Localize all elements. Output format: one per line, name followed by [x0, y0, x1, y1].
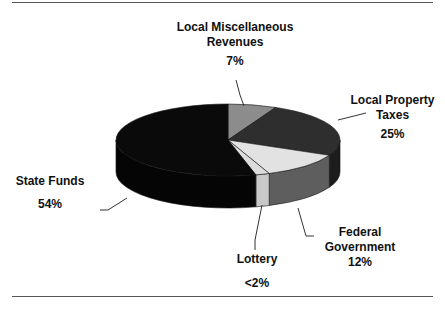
label-name-line1: Local Miscellaneous: [177, 20, 294, 34]
pie-side-3: [256, 173, 269, 206]
label-federal-government: Federal Government 12%: [300, 225, 420, 270]
label-name-line2: Government: [325, 240, 396, 254]
label-percent: 25%: [340, 127, 445, 142]
leader-line-lottery: [255, 205, 262, 250]
leader-line-state: [100, 198, 127, 210]
label-name-line2: Taxes: [376, 108, 409, 122]
label-percent: <2%: [222, 276, 292, 291]
label-name-line1: Federal: [339, 225, 382, 239]
label-name: State Funds: [16, 174, 85, 188]
label-percent: 12%: [300, 255, 420, 270]
label-local-misc-revenues: Local Miscellaneous Revenues 7%: [160, 20, 310, 69]
label-state-funds: State Funds 54%: [0, 174, 100, 212]
label-percent: 54%: [0, 197, 100, 212]
label-percent: 7%: [160, 54, 310, 69]
label-name-line2: Revenues: [207, 35, 264, 49]
label-local-property-taxes: Local Property Taxes 25%: [340, 93, 445, 142]
label-name: Lottery: [237, 252, 278, 266]
leader-line-misc: [236, 80, 244, 106]
label-name-line1: Local Property: [350, 93, 434, 107]
label-lottery: Lottery <2%: [222, 252, 292, 291]
